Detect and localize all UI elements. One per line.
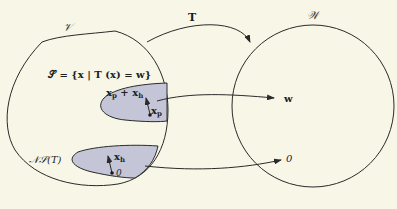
codomain-label: 𝒲 (307, 10, 319, 21)
xp-label: xp (151, 106, 162, 117)
zero-in-V-label: 0 (116, 169, 122, 178)
diagram-graphics (0, 0, 397, 209)
transformation-arrow (147, 25, 250, 42)
linear-transformation-diagram: 𝒱 𝒲 T 𝒮 = {x | T (x) = w} xp + xh xp xh … (0, 0, 397, 209)
domain-label: 𝒱 (63, 22, 72, 33)
codomain-set-W (232, 25, 394, 187)
xh-label: xh (114, 152, 125, 163)
null-space-label: 𝒩𝒮(T) (29, 155, 61, 165)
zero-point (110, 171, 114, 175)
zero-in-W-label: 0 (286, 154, 292, 164)
solution-set-label: 𝒮 = {x | T (x) = w} (48, 70, 151, 80)
w-label: w (284, 94, 293, 104)
solution-to-w-arrow (157, 95, 274, 101)
xp-plus-xh-label: xp + xh (106, 88, 143, 99)
map-label: T (188, 12, 196, 23)
